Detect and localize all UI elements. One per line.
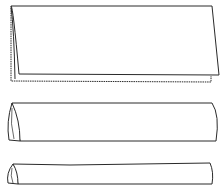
roll-body [12,103,217,141]
roll-body [13,163,213,184]
step-1-folded-sheet [11,6,219,82]
front-layer [11,6,219,75]
step-3-rolled-thin [8,163,213,184]
step-2-rolled-flat [8,103,217,141]
folding-diagram [0,0,220,196]
